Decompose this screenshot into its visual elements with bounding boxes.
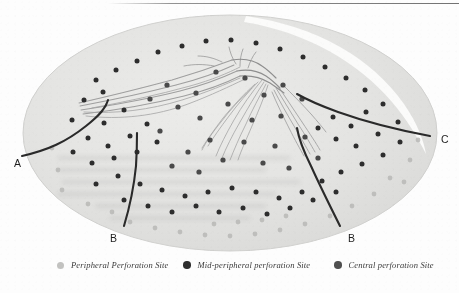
perforation-dot [203,233,208,238]
perforation-dot [122,198,127,203]
perforation-dot [363,88,368,93]
perforation-dot [169,163,174,168]
perforation-dot [82,98,87,103]
perforation-dot [328,214,333,219]
perforation-dot [350,204,355,209]
legend-peripheral: Peripheral Perforation Site [57,260,169,270]
perforation-dot [334,137,339,142]
perforation-dot [277,196,282,201]
perforation-dot [303,222,308,227]
perforation-dot [253,232,258,237]
perforation-dot [301,55,306,60]
perforation-dot [288,206,293,211]
perforation-dot [388,176,393,181]
perforation-dot [114,68,119,73]
perforation-dot [217,210,222,215]
perforation-dot [323,65,328,70]
perforation-dot [164,82,169,87]
perforation-dot [212,222,217,227]
perforation-dot [60,188,65,193]
perforation-dot [106,144,111,149]
perforation-dot [170,210,175,215]
perforation-dot [284,214,289,219]
perforation-dot [70,118,75,123]
perforation-dot [278,47,283,52]
perforation-dot [147,96,152,101]
perforation-dot [153,226,158,231]
perforation-dot [155,140,160,145]
perforation-dot [265,212,270,217]
perforation-dot [185,149,190,154]
perforation-dot [236,220,241,225]
perforation-dot [204,39,209,44]
perforation-dot [381,102,386,107]
legend-label: Central perforation Site [349,260,434,270]
perforation-dot [320,179,325,184]
perforation-dot [344,76,349,81]
legend-marker-icon [57,262,64,269]
perforation-dot [278,113,283,118]
perforation-dot [372,192,377,197]
retina-figure: ABBC [0,0,459,293]
perforation-dot [157,128,162,133]
perforation-dot [94,182,99,187]
perforation-dot [116,174,121,179]
label-b-right: B [348,232,355,244]
perforation-dot [408,158,413,163]
legend: Peripheral Perforation SiteMid-periphera… [0,258,459,288]
perforation-dot [302,134,307,139]
perforation-dot [193,90,198,95]
perforation-dot [86,202,91,207]
perforation-dot [316,126,321,131]
perforation-dot [225,101,230,106]
scan-top-rule [108,3,459,4]
perforation-dot [360,162,365,167]
perforation-dot [102,121,107,126]
perforation-dot [334,190,339,195]
perforation-dot [241,139,246,144]
perforation-dot [213,69,218,74]
perforation-dot [101,90,106,95]
legend-label: Peripheral Perforation Site [71,260,169,270]
perforation-dot [286,165,291,170]
perforation-dot [206,190,211,195]
perforation-dot [90,161,95,166]
perforation-dot [402,180,407,185]
perforation-dot [220,157,225,162]
perforation-dot [229,38,234,43]
perforation-dot [160,188,165,193]
perforation-dot [71,150,76,155]
label-c: C [441,133,449,145]
perforation-dot [280,82,285,87]
legend-mid-peripheral: Mid-peripheral perforation Site [183,260,310,270]
perforation-dot [146,204,151,209]
perforation-dot [197,115,202,120]
perforation-dot [175,104,180,109]
perforation-dot [278,228,283,233]
perforation-dot [331,115,336,120]
perforation-dot [180,44,185,49]
perforation-dot [261,92,266,97]
perforation-dot [381,153,386,158]
perforation-dot [364,110,369,115]
label-b-left: B [110,232,117,244]
perforation-dot [156,50,161,55]
perforation-dot [311,198,316,203]
perforation-dot [128,134,133,139]
perforation-dot [339,170,344,175]
perforation-dot [249,117,254,122]
perforation-dot [241,206,246,211]
perforation-dot [128,220,133,225]
legend-marker-icon [334,261,342,269]
perforation-dot [135,59,140,64]
perforation-dot [272,143,277,148]
perforation-dot [315,155,320,160]
perforation-dot [178,230,183,235]
perforation-dot [254,41,259,46]
perforation-dot [194,204,199,209]
perforation-dot [122,108,127,113]
legend-central: Central perforation Site [334,260,434,270]
perforation-dot [207,137,212,142]
retina-diagram-svg [0,0,459,293]
perforation-dot [398,140,403,145]
